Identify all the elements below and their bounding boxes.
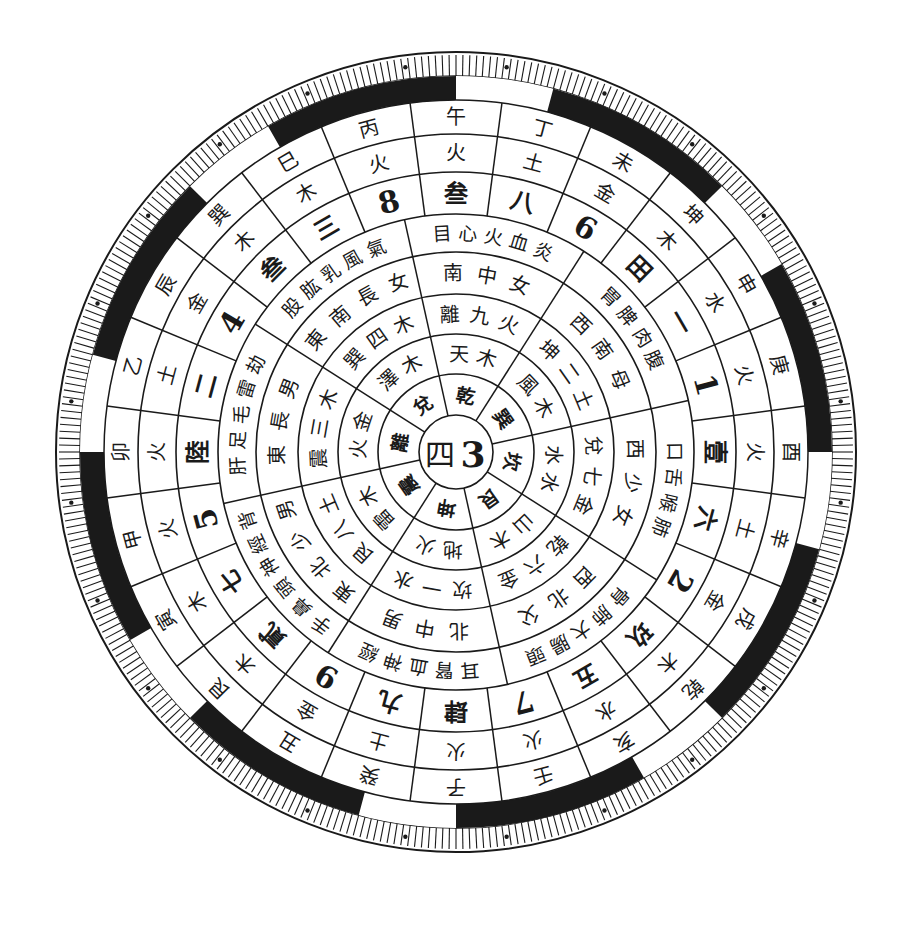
mountain-sector: 辰金4 <box>150 270 252 340</box>
trigram-ring3-text: 土 <box>314 491 344 519</box>
degree-tick <box>621 790 630 809</box>
degree-tick <box>508 824 511 845</box>
trigram-ring5-text: 氣 <box>363 234 389 261</box>
degree-tick <box>295 795 304 814</box>
degree-tick <box>547 67 552 87</box>
trigram-ring5-text: 肉 <box>628 323 657 351</box>
degree-tick <box>276 98 286 117</box>
number-label: 七 <box>213 564 250 599</box>
degree-tick <box>96 611 115 620</box>
trigram-ring4-text: 南 <box>324 300 355 331</box>
degree-tick <box>65 383 86 387</box>
trigram-ring5-text: 肝 <box>226 456 249 476</box>
trigram-ring5-text: 背 <box>234 507 261 532</box>
degree-tick <box>83 581 103 588</box>
element-label: 金 <box>292 696 321 727</box>
element-label: 金 <box>591 178 620 209</box>
mountain-label: 子 <box>446 775 466 799</box>
degree-tick <box>102 272 121 282</box>
degree-tick <box>85 587 105 595</box>
trigram-name: 離 <box>387 431 412 454</box>
degree-tick <box>347 70 353 90</box>
trigram-ring5-text: 手 <box>307 610 336 639</box>
trigram-ring5-text: 足 <box>226 430 249 450</box>
degree-tick <box>401 824 404 845</box>
degree-tick <box>81 574 101 581</box>
trigram-ring3-text: 火 <box>495 310 523 340</box>
trigram-ring3-text: 乾 <box>542 530 573 561</box>
degree-tick <box>394 823 397 844</box>
mountain-label: 巳 <box>274 146 303 177</box>
trigram-ring5-text: 神 <box>380 648 405 675</box>
degree-tick <box>367 65 372 85</box>
mountain-label: 辰 <box>150 270 181 299</box>
degree-tick <box>822 537 842 542</box>
degree-tick <box>791 623 810 633</box>
degree-tick <box>367 818 372 838</box>
dot-mark <box>218 758 222 762</box>
degree-tick <box>415 57 417 78</box>
degree-tick <box>288 92 297 111</box>
number-label: 貳 <box>254 616 291 653</box>
degree-tick <box>712 727 726 742</box>
trigram-sector: 兌澤木巽四木東南長女股肱乳風氣 <box>277 234 437 419</box>
degree-tick <box>81 323 101 330</box>
trigram-name: 兌 <box>409 390 437 419</box>
degree-tick <box>469 55 470 76</box>
degree-tick <box>170 713 185 728</box>
dot-mark <box>504 65 508 69</box>
degree-tick <box>722 718 737 733</box>
degree-tick <box>78 568 98 574</box>
dot-mark <box>762 214 766 218</box>
trigram-ring2-text: 木 <box>528 393 558 422</box>
degree-tick <box>585 805 592 825</box>
trigram-ring3-text: 四 <box>362 323 392 354</box>
mountain-sector: 卯火陸 <box>109 440 212 464</box>
degree-tick <box>799 291 818 300</box>
degree-tick <box>99 617 118 626</box>
degree-tick <box>380 821 384 842</box>
dot-mark <box>812 301 816 305</box>
number-label: 一 <box>662 305 699 340</box>
degree-tick <box>333 74 339 94</box>
mountain-label: 卯 <box>109 442 133 462</box>
degree-tick <box>521 822 525 843</box>
trigram-ring3-text: 土 <box>569 385 599 413</box>
trigram-ring2-text: 金 <box>348 408 377 434</box>
degree-tick <box>712 162 726 177</box>
degree-tick <box>78 329 98 335</box>
degree-tick <box>797 284 816 293</box>
dot-mark <box>812 598 816 602</box>
number-label: 5 <box>186 504 225 533</box>
degree-tick <box>788 266 807 276</box>
dot-mark <box>690 142 694 146</box>
trigram-ring5-text: 舌 <box>662 466 686 487</box>
trigram-ring5-text: 胃 <box>596 282 625 311</box>
mountain-sector: 未金6 <box>568 146 638 248</box>
trigram-name: 震 <box>394 470 423 499</box>
degree-tick <box>373 64 377 85</box>
degree-tick <box>91 599 110 607</box>
degree-tick <box>566 812 572 832</box>
degree-tick <box>816 562 836 568</box>
mountain-divider <box>410 688 425 801</box>
trigram-ring5-text: 肺 <box>648 515 675 540</box>
degree-tick <box>541 818 546 838</box>
mountain-label: 甲 <box>118 526 146 552</box>
trigram-ring4-text: 東 <box>301 325 332 356</box>
number-label: 2 <box>660 564 701 600</box>
degree-tick <box>408 58 411 79</box>
degree-tick <box>93 605 112 614</box>
degree-tick <box>476 827 477 848</box>
trigram-ring5-text: 耳 <box>460 659 480 682</box>
number-label: 6 <box>568 207 604 248</box>
degree-tick <box>333 810 339 830</box>
degree-tick <box>802 297 821 305</box>
trigram-name: 乾 <box>455 383 478 408</box>
degree-tick <box>633 784 643 803</box>
degree-tick <box>788 629 807 639</box>
trigram-ring2-text: 木 <box>353 482 383 511</box>
degree-tick <box>817 343 837 349</box>
ring-ring5 <box>218 214 694 690</box>
degree-tick <box>822 363 842 368</box>
